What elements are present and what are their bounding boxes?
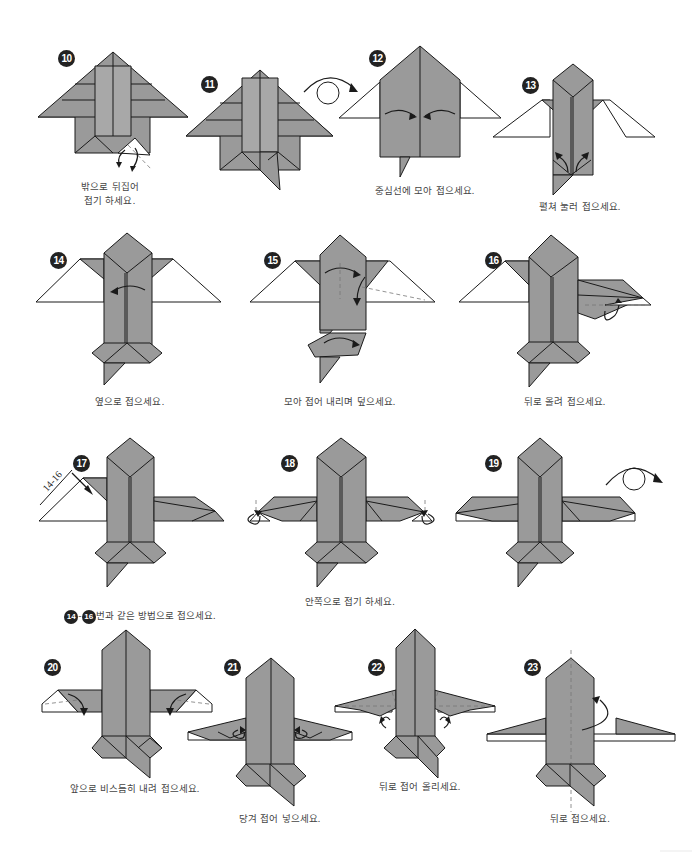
step-16-diagram [455, 215, 692, 415]
step-16: 16 뒤로 올려 접으세요. [455, 215, 692, 415]
step-13: 13 펼쳐 눌러 접으세요. [490, 0, 692, 215]
step-caption: 당겨 접어 넣으세요. [220, 812, 340, 826]
step-17: 17 14-16 14-16번과 같은 방법으로 접으세요. [0, 415, 240, 620]
turn-over-arrow-icon [600, 465, 670, 505]
step-22-diagram [330, 620, 500, 857]
step-19: 19 [450, 415, 692, 620]
step-range-label: 14-16 [40, 469, 64, 494]
step-caption: 뒤로 접어 올리세요. [350, 780, 490, 794]
step-17-diagram: 14-16 [0, 415, 240, 620]
step-caption: 밖으로 뒤집어 접기 하세요. [60, 180, 160, 208]
step-caption: 안쪽으로 접기 하세요. [280, 595, 420, 609]
step-19-diagram [450, 415, 692, 620]
step-caption: 중심선에 모아 접으세요. [345, 184, 505, 198]
step-15: 15 모아 접어 내리며 덮으세요. [240, 215, 460, 415]
step-caption: 옆으로 접으세요. [60, 395, 200, 409]
step-caption: 모아 접어 내리며 덮으세요. [260, 395, 420, 409]
step-caption: 뒤로 접으세요. [520, 812, 640, 826]
step-18-diagram [240, 415, 450, 620]
step-13-diagram [490, 0, 692, 215]
step-caption: 펼쳐 눌러 접으세요. [510, 200, 650, 214]
step-23: 23 뒤로 접으세요. [480, 620, 692, 857]
step-caption: 뒤로 올려 접으세요. [495, 395, 635, 409]
step-14-diagram [0, 215, 240, 415]
step-14: 14 옆으로 접으세요. [0, 215, 240, 415]
step-22: 22 뒤로 접어 올리세요. [330, 620, 500, 857]
page-corner-mark [660, 850, 692, 852]
step-15-diagram [240, 215, 460, 415]
step-12: 12 중심선에 모아 접으세요. [335, 0, 505, 215]
step-18: 18 안쪽으로 접기 하세요. [240, 415, 450, 620]
step-12-diagram [335, 0, 505, 215]
